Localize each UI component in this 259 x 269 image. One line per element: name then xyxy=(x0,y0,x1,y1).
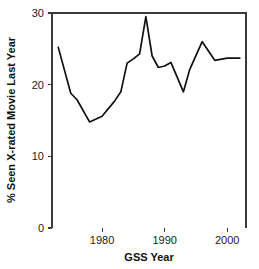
x-axis-tick-labels: 198019902000 xyxy=(90,234,240,246)
x-axis-title: GSS Year xyxy=(124,251,174,263)
x-tick-label: 2000 xyxy=(215,234,239,246)
y-axis-title: % Seen X-rated Movie Last Year xyxy=(5,36,17,203)
chart-figure: 0102030 198019902000 GSS Year % Seen X-r… xyxy=(0,0,259,269)
y-tick-label: 0 xyxy=(38,222,44,234)
y-tick-label: 10 xyxy=(32,150,44,162)
x-tick-label: 1990 xyxy=(152,234,176,246)
y-tick-label: 30 xyxy=(32,7,44,19)
line-chart: 0102030 198019902000 GSS Year % Seen X-r… xyxy=(0,0,259,269)
y-tick-label: 20 xyxy=(32,79,44,91)
x-tick-label: 1980 xyxy=(90,234,114,246)
